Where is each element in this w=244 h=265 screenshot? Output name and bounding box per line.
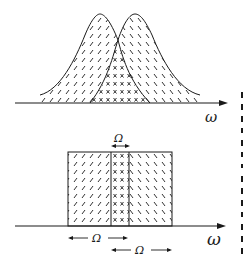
top-panel-gaussian-spectra: ω bbox=[15, 10, 228, 126]
left-band-hatch bbox=[68, 152, 111, 226]
top-axis-label: ω bbox=[205, 108, 217, 126]
spectral-overlap-diagram: ω Ω ω Ω bbox=[0, 0, 244, 265]
right-band-width-label: Ω bbox=[134, 244, 144, 257]
bottom-panel-rectangular-spectra: Ω ω Ω Ω bbox=[15, 132, 226, 257]
cropped-page-text-edge bbox=[241, 92, 243, 254]
right-band-hatch bbox=[129, 152, 172, 226]
overlap-width-label: Ω bbox=[113, 132, 123, 145]
overlap-band-hatch bbox=[111, 152, 129, 226]
left-band-width-label: Ω bbox=[91, 232, 101, 245]
bottom-axis-label: ω bbox=[207, 229, 221, 249]
top-axis-arrowhead-icon bbox=[219, 100, 228, 106]
